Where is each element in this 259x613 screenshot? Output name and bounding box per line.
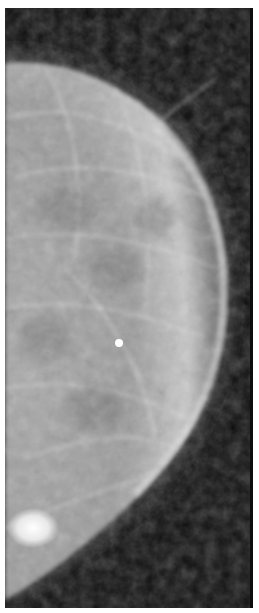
dense-region (7, 508, 59, 548)
marker-dot (115, 339, 123, 347)
mammogram-drawing (5, 8, 253, 608)
mammogram-image (5, 8, 253, 608)
